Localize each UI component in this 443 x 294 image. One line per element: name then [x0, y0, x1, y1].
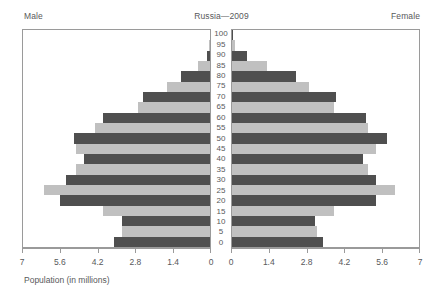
female-bar-age-30 [232, 175, 376, 185]
male-tick [22, 248, 23, 253]
female-bar-age-75 [232, 82, 309, 92]
male-tick-label-1.4: 1.4 [167, 256, 179, 268]
bar-row [232, 164, 419, 174]
age-label-70: 70 [211, 92, 231, 102]
female-bar-age-65 [232, 102, 334, 112]
female-bar-age-20 [232, 195, 376, 205]
female-bar-age-35 [232, 164, 368, 174]
male-x-tick-labels: 75.64.22.81.40 [22, 256, 211, 268]
female-bar-age-25 [232, 185, 395, 195]
male-bar-age-90 [207, 51, 210, 61]
male-bar-age-45 [76, 144, 210, 154]
female-bar-age-0 [232, 237, 323, 247]
female-tick [382, 248, 383, 253]
bar-row [23, 51, 210, 61]
bar-row [232, 51, 419, 61]
age-label-80: 80 [211, 71, 231, 81]
male-bar-age-50 [74, 133, 210, 143]
female-tick-label-7: 7 [418, 256, 423, 268]
male-tick-label-2.8: 2.8 [129, 256, 141, 268]
male-bar-age-85 [198, 61, 210, 71]
bar-row [232, 30, 419, 40]
male-bar-age-80 [181, 71, 210, 81]
female-bar-age-5 [232, 226, 317, 236]
female-tick-label-2.8: 2.8 [301, 256, 313, 268]
female-bar-age-55 [232, 123, 368, 133]
female-bar-age-70 [232, 92, 336, 102]
female-bar-age-50 [232, 133, 387, 143]
female-bar-age-45 [232, 144, 376, 154]
female-x-tick-labels: 01.42.84.25.67 [231, 256, 420, 268]
bar-row [232, 175, 419, 185]
bar-row [232, 113, 419, 123]
bar-row [23, 226, 210, 236]
female-bar-age-95 [232, 40, 235, 50]
male-tick-label-4.2: 4.2 [92, 256, 104, 268]
female-x-axis [231, 248, 420, 254]
bar-row [23, 113, 210, 123]
female-bar-age-15 [232, 206, 334, 216]
bar-row [232, 40, 419, 50]
bar-row [23, 195, 210, 205]
male-tick [210, 248, 211, 253]
male-x-axis [22, 248, 211, 254]
bar-row [232, 71, 419, 81]
male-bar-age-55 [95, 123, 210, 133]
age-label-50: 50 [211, 133, 231, 143]
x-axis-title: Population (in millions) [24, 275, 110, 285]
bar-row [23, 154, 210, 164]
age-label-60: 60 [211, 113, 231, 123]
chart-title: Russia—2009 [0, 11, 443, 21]
female-bar-age-10 [232, 216, 315, 226]
bar-row [23, 164, 210, 174]
male-bar-age-25 [44, 185, 210, 195]
male-bar-age-95 [209, 40, 210, 50]
female-tick [307, 248, 308, 253]
age-label-65: 65 [211, 102, 231, 112]
bar-row [23, 71, 210, 81]
bar-row [232, 102, 419, 112]
male-bar-age-35 [76, 164, 210, 174]
age-label-35: 35 [211, 165, 231, 175]
age-label-55: 55 [211, 123, 231, 133]
age-label-100: 100 [211, 29, 231, 39]
female-tick-label-0: 0 [229, 256, 234, 268]
bar-row [23, 61, 210, 71]
female-bar-age-85 [232, 61, 267, 71]
bar-row [232, 154, 419, 164]
male-bar-age-75 [167, 82, 210, 92]
bar-row [232, 206, 419, 216]
age-label-30: 30 [211, 175, 231, 185]
age-label-15: 15 [211, 206, 231, 216]
female-tick [231, 248, 232, 253]
male-bar-age-30 [66, 175, 210, 185]
age-label-85: 85 [211, 60, 231, 70]
age-label-20: 20 [211, 196, 231, 206]
bar-row [23, 40, 210, 50]
age-label-90: 90 [211, 50, 231, 60]
female-bar-rows [232, 30, 419, 247]
bar-row [23, 82, 210, 92]
male-bar-age-60 [103, 113, 210, 123]
male-plot-panel [22, 29, 211, 248]
male-tick [98, 248, 99, 253]
male-tick-label-0: 0 [209, 256, 214, 268]
bar-row [23, 92, 210, 102]
male-bar-age-20 [60, 195, 210, 205]
bar-row [232, 61, 419, 71]
male-bar-age-15 [103, 206, 210, 216]
bar-row [232, 92, 419, 102]
male-axis-line [22, 248, 211, 249]
bar-row [23, 133, 210, 143]
bar-row [23, 123, 210, 133]
age-label-5: 5 [211, 227, 231, 237]
bar-row [23, 216, 210, 226]
age-label-75: 75 [211, 81, 231, 91]
population-pyramid-chart: Male Russia—2009 Female 0510152025303540… [0, 0, 443, 294]
bar-row [232, 82, 419, 92]
male-tick [60, 248, 61, 253]
male-tick [135, 248, 136, 253]
bar-row [232, 185, 419, 195]
bar-row [232, 237, 419, 247]
bar-row [232, 226, 419, 236]
